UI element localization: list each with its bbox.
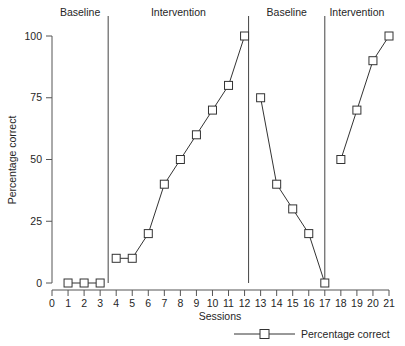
- y-tick-label: 100: [24, 30, 42, 42]
- y-tick-label: 50: [30, 153, 42, 165]
- x-axis-ticks: 0123456789101112131415161718192021: [49, 290, 395, 309]
- data-point-marker: [353, 106, 361, 114]
- data-point-marker: [160, 180, 168, 188]
- x-tick-label: 21: [383, 297, 395, 309]
- x-tick-label: 0: [49, 297, 55, 309]
- single-case-design-line-chart: 0255075100 01234567891011121314151617181…: [0, 0, 405, 346]
- data-series: [64, 32, 393, 287]
- data-point-marker: [96, 279, 104, 287]
- x-tick-label: 16: [303, 297, 315, 309]
- data-point-marker: [385, 32, 393, 40]
- data-point-marker: [369, 57, 377, 65]
- data-point-marker: [225, 81, 233, 89]
- y-axis-ticks: 0255075100: [24, 30, 52, 289]
- data-point-marker: [241, 32, 249, 40]
- y-tick-label: 0: [36, 277, 42, 289]
- x-tick-label: 12: [239, 297, 251, 309]
- data-point-marker: [305, 230, 313, 238]
- phase-label: Intervention: [151, 6, 206, 18]
- x-tick-label: 5: [129, 297, 135, 309]
- data-point-marker: [80, 279, 88, 287]
- x-tick-label: 18: [335, 297, 347, 309]
- series-line-segment: [341, 36, 389, 160]
- x-tick-label: 10: [207, 297, 219, 309]
- x-tick-label: 17: [319, 297, 331, 309]
- series-line-segment: [261, 98, 325, 283]
- x-tick-label: 14: [271, 297, 283, 309]
- data-point-marker: [208, 106, 216, 114]
- x-tick-label: 2: [81, 297, 87, 309]
- data-point-marker: [144, 230, 152, 238]
- x-tick-label: 6: [145, 297, 151, 309]
- data-point-marker: [273, 180, 281, 188]
- phase-label: Baseline: [267, 6, 307, 18]
- x-tick-label: 4: [113, 297, 119, 309]
- x-tick-label: 15: [287, 297, 299, 309]
- y-tick-label: 75: [30, 91, 42, 103]
- data-point-marker: [64, 279, 72, 287]
- y-axis-title: Percentage correct: [6, 116, 18, 205]
- x-tick-label: 8: [177, 297, 183, 309]
- data-point-marker: [176, 156, 184, 164]
- legend-label-percentage-correct: Percentage correct: [301, 328, 390, 340]
- data-point-marker: [257, 94, 265, 102]
- phase-label: Intervention: [329, 6, 384, 18]
- data-point-marker: [321, 279, 329, 287]
- phase-divider-lines: [108, 16, 325, 283]
- data-point-marker: [337, 156, 345, 164]
- x-tick-label: 9: [194, 297, 200, 309]
- data-point-marker: [289, 205, 297, 213]
- phase-label: Baseline: [60, 6, 100, 18]
- data-point-marker: [112, 254, 120, 262]
- chart-legend: Percentage correct: [234, 328, 390, 340]
- data-point-marker: [192, 131, 200, 139]
- x-tick-label: 3: [97, 297, 103, 309]
- data-point-marker: [128, 254, 136, 262]
- legend-marker-open-square: [260, 330, 269, 339]
- x-tick-label: 20: [367, 297, 379, 309]
- chart-figure: 0255075100 01234567891011121314151617181…: [0, 0, 405, 346]
- x-tick-label: 19: [351, 297, 363, 309]
- x-tick-label: 1: [65, 297, 71, 309]
- y-tick-label: 25: [30, 215, 42, 227]
- series-line-segment: [116, 36, 244, 258]
- x-tick-label: 11: [223, 297, 234, 309]
- x-axis-title: Sessions: [199, 310, 242, 322]
- x-tick-label: 7: [161, 297, 167, 309]
- x-tick-label: 13: [255, 297, 267, 309]
